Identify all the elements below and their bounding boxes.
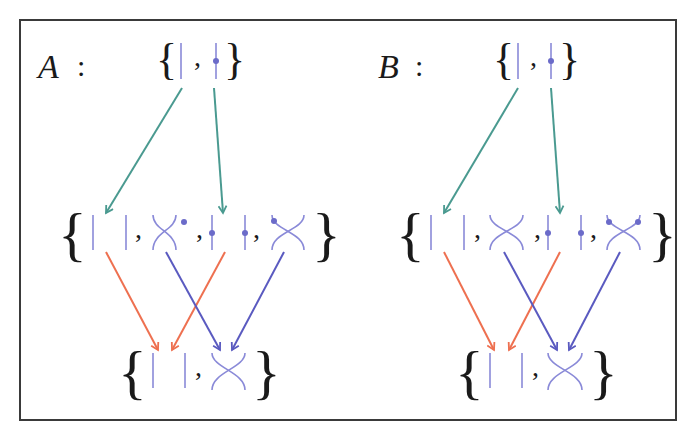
comma: ,	[195, 351, 202, 382]
dotted-strand-icon	[209, 215, 215, 250]
crossing-icon	[490, 215, 523, 250]
crossing-dot-icon	[271, 215, 304, 250]
comma: ,	[530, 41, 537, 72]
teal-arrow	[214, 88, 223, 213]
panel-b: B : { , } { , ,	[378, 35, 677, 405]
teal-arrow	[444, 88, 518, 213]
panel-colon-b: :	[415, 49, 423, 82]
bottom-set-b: { , }	[455, 339, 618, 405]
top-set-a: { , }	[156, 35, 245, 84]
crossing-icon	[548, 353, 582, 390]
close-brace: }	[648, 201, 677, 267]
middle-set-a: { , , ,	[58, 201, 341, 267]
two-strands-icon	[93, 215, 126, 250]
comma: ,	[590, 213, 597, 244]
diagram-canvas: A : { , } { , ,	[0, 0, 697, 439]
comma: ,	[474, 213, 481, 244]
comma: ,	[135, 213, 142, 244]
open-brace: {	[493, 35, 514, 84]
close-brace: }	[559, 35, 580, 84]
open-brace: {	[58, 201, 87, 267]
bottom-set-a: { , }	[118, 339, 281, 405]
two-strands-icon	[153, 353, 185, 388]
dotted-strand-icon	[548, 43, 554, 79]
close-brace: }	[252, 339, 281, 405]
comma: ,	[194, 41, 201, 72]
panel-label-b: B	[378, 48, 399, 85]
crossing-dot-icon	[153, 215, 187, 250]
comma: ,	[534, 213, 541, 244]
close-brace: }	[224, 35, 245, 84]
dotted-strand-icon	[545, 215, 551, 250]
two-strands-icon	[490, 353, 522, 388]
open-brace: {	[118, 339, 147, 405]
teal-arrow	[106, 88, 182, 213]
blue-arrow	[504, 252, 557, 350]
panel-colon-a: :	[77, 49, 85, 82]
dotted-strand-icon	[213, 43, 219, 79]
top-set-b: { , }	[493, 35, 580, 84]
dotted-strand-icon	[242, 215, 248, 250]
teal-arrow	[551, 88, 560, 213]
open-brace: {	[156, 35, 177, 84]
comma: ,	[532, 351, 539, 382]
open-brace: {	[396, 201, 425, 267]
close-brace: }	[312, 201, 341, 267]
crossing-icon	[212, 353, 245, 390]
crossing-two-dots-icon	[606, 215, 641, 250]
dotted-strand-icon	[578, 215, 584, 250]
panel-label-a: A	[36, 48, 59, 85]
comma: ,	[196, 213, 203, 244]
two-strands-icon	[431, 215, 464, 250]
blue-arrow	[569, 252, 620, 350]
middle-set-b: { , , ,	[396, 201, 677, 267]
orange-arrow	[106, 252, 158, 350]
orange-arrow	[172, 252, 225, 350]
comma: ,	[253, 213, 260, 244]
panel-a: A : { , } { , ,	[36, 35, 341, 405]
orange-arrow	[444, 252, 494, 350]
orange-arrow	[509, 252, 560, 350]
open-brace: {	[455, 339, 484, 405]
blue-arrow	[166, 252, 220, 350]
blue-arrow	[232, 252, 284, 350]
close-brace: }	[589, 339, 618, 405]
